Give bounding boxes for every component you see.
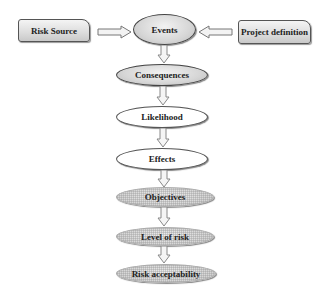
down-arrow-icon bbox=[157, 45, 171, 64]
consequences-label: Consequences bbox=[135, 70, 189, 80]
risk-source-label: Risk Source bbox=[31, 26, 77, 36]
risk-acceptability-label: Risk acceptability bbox=[132, 269, 201, 279]
right-arrow-icon bbox=[97, 25, 133, 39]
consequences-node: Consequences bbox=[116, 64, 208, 86]
project-definition-label: Project definition bbox=[241, 27, 308, 37]
events-node: Events bbox=[133, 14, 196, 45]
effects-node: Effects bbox=[116, 148, 208, 170]
down-arrow-icon bbox=[156, 128, 170, 148]
objectives-label: Objectives bbox=[145, 192, 186, 202]
project-definition-box: Project definition bbox=[238, 20, 311, 44]
effects-label: Effects bbox=[149, 154, 176, 164]
level-of-risk-node: Level of risk bbox=[116, 227, 214, 246]
down-arrow-icon bbox=[157, 170, 171, 188]
objectives-node: Objectives bbox=[116, 187, 214, 207]
level-of-risk-label: Level of risk bbox=[141, 232, 189, 242]
down-arrow-icon bbox=[157, 207, 171, 227]
likelihood-node: Likelihood bbox=[116, 106, 208, 128]
likelihood-label: Likelihood bbox=[141, 112, 183, 122]
down-arrow-icon bbox=[156, 86, 170, 106]
events-label: Events bbox=[151, 25, 177, 35]
left-arrow-icon bbox=[197, 25, 233, 39]
risk-acceptability-node: Risk acceptability bbox=[116, 264, 216, 283]
risk-source-box: Risk Source bbox=[18, 19, 90, 42]
down-arrow-icon bbox=[157, 246, 171, 264]
